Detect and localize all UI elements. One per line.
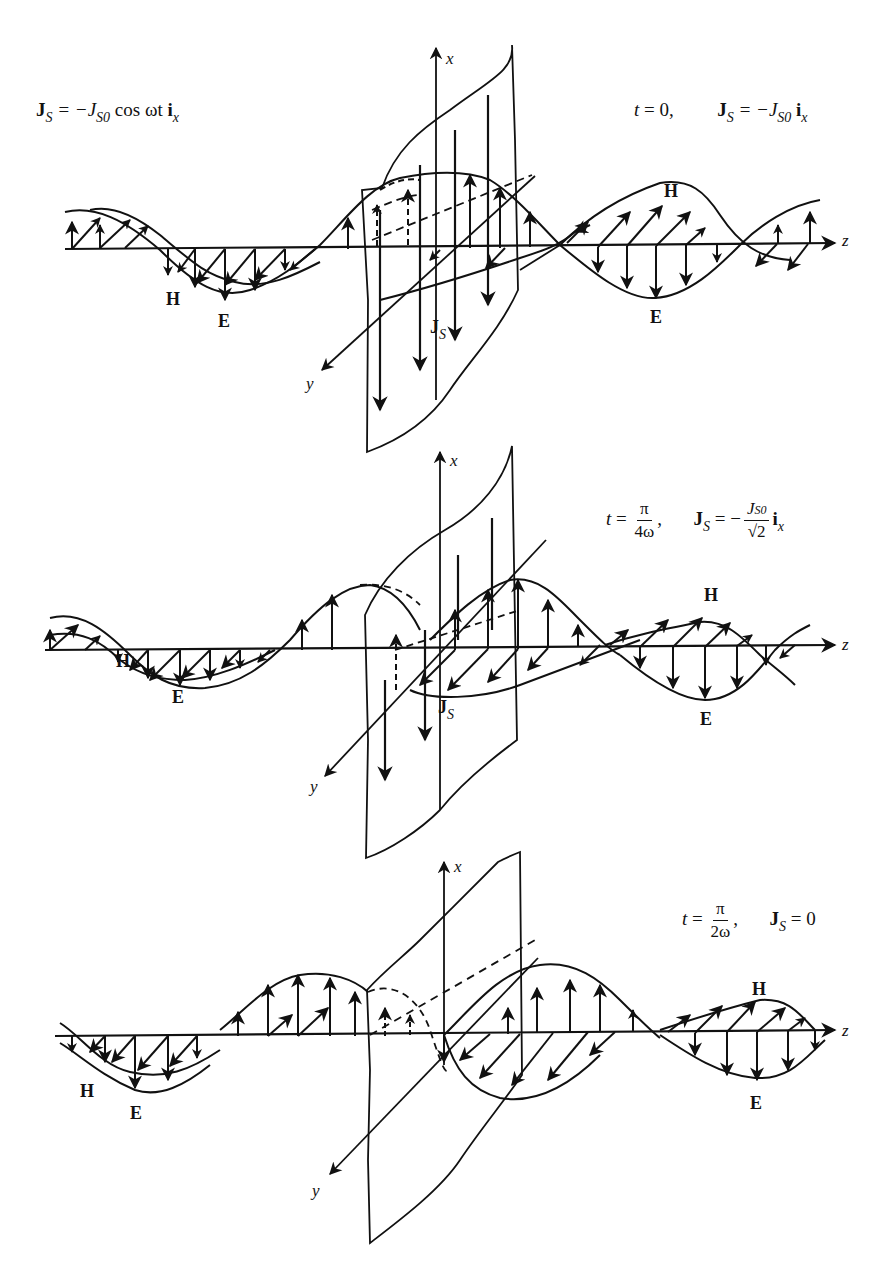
z-axis-label: z <box>842 1022 849 1039</box>
time-label-t-pi-2w: t = π2ω, JS = 0 <box>682 900 816 941</box>
wave-diagram-t-pi-2w <box>0 830 896 1284</box>
e-label-right: E <box>700 710 712 728</box>
e-label-left: E <box>130 1104 142 1122</box>
panel-t0: JS = −JS0 cos ωt ix t = 0, JS = −JS0 ix … <box>0 0 896 460</box>
wave-diagram-t0 <box>0 0 896 460</box>
x-axis-label: x <box>446 50 454 67</box>
h-label-left: H <box>80 1082 94 1100</box>
panel-t-pi-4w: t = π4ω, JS = −JS0√2ix x z y H E H E JS <box>0 440 896 870</box>
y-axis-label: y <box>312 1182 320 1199</box>
h-label-left: H <box>116 652 130 670</box>
panel-t-pi-2w: t = π2ω, JS = 0 x z y H E H E <box>0 830 896 1284</box>
y-axis-label: y <box>310 778 318 795</box>
js-label: JS <box>438 698 454 716</box>
z-axis-label: z <box>842 232 849 249</box>
e-label-right: E <box>750 1094 762 1112</box>
time-label-t-pi-4w: t = π4ω, JS = −JS0√2ix <box>606 500 784 541</box>
h-label-right: H <box>752 980 766 998</box>
x-axis-label: x <box>450 452 458 469</box>
source-current-equation: JS = −JS0 cos ωt ix <box>36 100 179 119</box>
h-label-right: H <box>704 586 718 604</box>
e-label-left: E <box>218 312 230 330</box>
x-axis-label: x <box>454 858 462 875</box>
z-axis-label: z <box>842 636 849 653</box>
e-label-left: E <box>172 688 184 706</box>
time-label-t0: t = 0, JS = −JS0 ix <box>634 100 808 119</box>
y-axis-label: y <box>306 375 314 392</box>
z-axis <box>65 243 835 249</box>
e-label-right: E <box>650 308 662 326</box>
js-label: JS <box>430 318 446 336</box>
h-label-right: H <box>664 182 678 200</box>
h-label-left: H <box>166 290 180 308</box>
current-fraction: JS0√2 <box>744 500 770 541</box>
time-fraction: π2ω <box>711 900 731 941</box>
y-axis <box>322 176 535 370</box>
time-fraction: π4ω <box>635 500 655 541</box>
